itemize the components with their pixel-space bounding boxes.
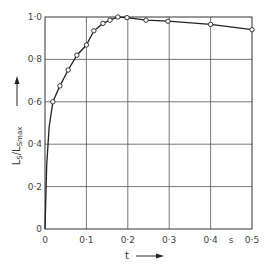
y-tick-label: 0·6 — [28, 97, 43, 107]
y-tick-label: 0 — [36, 224, 42, 234]
data-point — [84, 43, 88, 47]
y-tick-label: 0·4 — [28, 139, 43, 149]
x-tick-labels: 00·10·20·30·40·5 — [42, 235, 259, 245]
plot-frame — [45, 17, 252, 229]
y-axis-arrow-icon — [15, 76, 20, 106]
data-point — [101, 21, 105, 25]
x-axis-arrow-icon — [136, 254, 164, 259]
data-point — [116, 15, 120, 19]
x-unit-label: s — [229, 235, 234, 245]
data-point — [166, 19, 170, 23]
data-point — [92, 29, 96, 33]
x-tick-label: 0·1 — [79, 235, 93, 245]
data-point — [144, 18, 148, 22]
data-point — [51, 100, 55, 104]
y-axis-label: LS/LSmax — [11, 127, 24, 166]
y-tick-label: 0·8 — [28, 54, 43, 64]
x-tick-label: 0·2 — [121, 235, 135, 245]
y-tick-label: 0·2 — [28, 182, 42, 192]
data-curve — [45, 17, 252, 229]
data-point — [75, 53, 79, 57]
data-point — [58, 84, 62, 88]
chart: 00·20·40·60·81·0 00·10·20·30·40·5 s t LS… — [0, 0, 270, 265]
y-tick-labels: 00·20·40·60·81·0 — [28, 12, 43, 234]
data-point — [250, 28, 254, 32]
x-tick-label: 0·3 — [162, 235, 176, 245]
axes-box — [45, 17, 252, 229]
data-point — [66, 68, 70, 72]
y-tick-label: 1·0 — [28, 12, 43, 22]
x-tick-label: 0·4 — [203, 235, 218, 245]
svg-text:LS/LSmax: LS/LSmax — [11, 127, 24, 166]
grid-lines — [45, 17, 252, 229]
data-point — [108, 18, 112, 22]
x-tick-label: 0 — [42, 235, 48, 245]
x-tick-label: 0·5 — [245, 235, 259, 245]
data-point — [125, 15, 129, 19]
data-point — [208, 22, 212, 26]
x-axis-label: t — [125, 250, 129, 261]
